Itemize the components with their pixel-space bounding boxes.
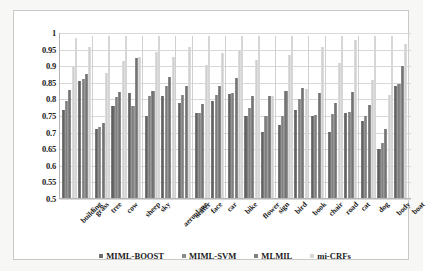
y-axis: 0.50.550.60.650.70.750.80.850.90.951 <box>14 33 56 199</box>
y-tick-label: 0.65 <box>16 145 56 153</box>
bar-peak-marker <box>75 38 77 198</box>
bar-group <box>128 33 145 198</box>
bar-group <box>144 33 161 198</box>
legend-label: mi-CRFs <box>317 251 350 261</box>
x-tick-label: dog <box>376 200 391 215</box>
y-tick-label: 0.55 <box>16 178 56 186</box>
y-tick-label: 0.7 <box>16 129 56 137</box>
x-tick-label: car <box>225 200 239 214</box>
y-tick-label: 0.95 <box>16 46 56 54</box>
y-tick-label: 0.8 <box>16 95 56 103</box>
legend-item[interactable]: MLMIL <box>254 251 292 261</box>
bar-peak-marker <box>325 36 327 198</box>
bar-group <box>294 33 311 198</box>
bar-peak-marker <box>308 36 310 198</box>
x-tick-label: road <box>344 200 361 217</box>
bar-peak-marker <box>241 36 243 198</box>
bar-peak-marker <box>358 36 360 198</box>
x-tick-label: cat <box>359 200 372 213</box>
bar-peak-marker <box>125 36 127 198</box>
y-tick-label: 0.75 <box>16 112 56 120</box>
x-tick-label: boat <box>410 200 426 216</box>
bar-group <box>111 33 128 198</box>
legend-swatch-icon <box>99 254 103 258</box>
legend-swatch-icon <box>182 254 186 258</box>
bar-peak-marker <box>142 36 144 198</box>
legend-item[interactable]: mi-CRFs <box>310 251 350 261</box>
chart-frame: 0.50.550.60.650.70.750.80.850.90.951 bui… <box>13 10 409 260</box>
bar-peak-marker <box>391 36 393 198</box>
bar-group <box>61 33 78 198</box>
bar-group <box>78 33 95 198</box>
x-tick-label: book <box>310 200 327 217</box>
x-tick-label: bird <box>293 200 309 216</box>
y-tick-label: 1 <box>16 29 56 37</box>
chart-legend: MIML-BOOSTMIML-SVMMLMILmi-CRFs <box>27 251 423 261</box>
y-tick-label: 0.6 <box>16 162 56 170</box>
y-tick-label: 0.85 <box>16 79 56 87</box>
x-axis-labels: buildinggrasstreecowsheepskyaeroplanewat… <box>59 200 411 246</box>
bar-group <box>344 33 361 198</box>
x-tick-label: tree <box>108 200 123 215</box>
bar-peak-marker <box>408 36 410 198</box>
legend-label: MIML-BOOST <box>106 251 164 261</box>
bar-group <box>244 33 261 198</box>
bar-group <box>161 33 178 198</box>
bar-peak-marker <box>275 36 277 198</box>
x-tick-label: body <box>394 200 411 217</box>
bar-group <box>327 33 344 198</box>
bar-peak-marker <box>341 36 343 198</box>
bar-group <box>194 33 211 198</box>
legend-label: MLMIL <box>261 251 292 261</box>
bar-peak-marker <box>225 36 227 198</box>
bar-group <box>94 33 111 198</box>
y-tick-label: 0.9 <box>16 62 56 70</box>
plot-area <box>59 33 411 199</box>
bar-group <box>261 33 278 198</box>
y-tick-label: 0.5 <box>16 195 56 203</box>
bar-peak-marker <box>175 36 177 198</box>
legend-item[interactable]: MIML-SVM <box>182 251 236 261</box>
bar-peak-marker <box>108 36 110 198</box>
legend-label: MIML-SVM <box>189 251 236 261</box>
bar-peak-marker <box>374 36 376 198</box>
bar-peak-marker <box>192 36 194 198</box>
bar-group <box>377 33 394 198</box>
x-tick-label: face <box>209 200 224 215</box>
bar-group <box>310 33 327 198</box>
x-tick-label: bike <box>243 200 259 216</box>
bar-group <box>277 33 294 198</box>
x-tick-label: sky <box>158 200 172 214</box>
bar-peak-marker <box>208 36 210 198</box>
bar-group <box>177 33 194 198</box>
bar-peak-marker <box>258 36 260 198</box>
bar-group <box>211 33 228 198</box>
legend-swatch-icon <box>310 254 314 258</box>
bar-peak-marker <box>291 36 293 198</box>
bar-group <box>360 33 377 198</box>
legend-item[interactable]: MIML-BOOST <box>99 251 164 261</box>
bar-peak-marker <box>158 36 160 198</box>
legend-swatch-icon <box>254 254 258 258</box>
x-tick-label: cow <box>125 200 140 215</box>
bar-peak-marker <box>92 36 94 198</box>
bar-group <box>394 33 411 198</box>
bar-group <box>227 33 244 198</box>
bar-groups <box>60 33 411 198</box>
x-tick-label: chair <box>327 200 345 218</box>
